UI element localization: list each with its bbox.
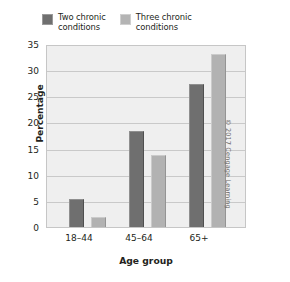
chart-legend: Two chronic conditions Three chronic con… xyxy=(42,12,192,32)
y-axis-title: Percentage xyxy=(34,74,45,154)
x-axis-title: Age group xyxy=(46,255,246,266)
bar-three-chronic-45-64 xyxy=(151,155,166,227)
y-tick-label-5: 5 xyxy=(0,197,39,207)
y-tick-label-35: 35 xyxy=(0,40,39,50)
y-tick-label-0: 0 xyxy=(0,223,39,233)
bar-two-chronic-45-64 xyxy=(129,131,144,227)
legend-entry-two-chronic-conditions: Two chronic conditions xyxy=(42,12,106,32)
copyright-credit: © 2017 Cengage Learning xyxy=(224,119,232,229)
y-tick-label-10: 10 xyxy=(0,171,39,181)
legend-label-two-chronic: Two chronic conditions xyxy=(58,12,106,32)
legend-swatch-icon-three-chronic xyxy=(120,14,131,25)
y-tick-label-15: 15 xyxy=(0,145,39,155)
y-tick-label-25: 25 xyxy=(0,92,39,102)
legend-label-three-chronic: Three chronic conditions xyxy=(136,12,192,32)
legend-swatch-icon-two-chronic xyxy=(42,14,53,25)
bar-two-chronic-65-plus xyxy=(189,84,204,227)
bar-chart-figure: Two chronic conditions Three chronic con… xyxy=(0,0,290,282)
bar-two-chronic-18-44 xyxy=(69,199,84,227)
y-tick-label-30: 30 xyxy=(0,66,39,76)
x-tick-label-65-plus: 65+ xyxy=(164,233,234,243)
y-tick-label-20: 20 xyxy=(0,118,39,128)
bar-three-chronic-18-44 xyxy=(91,217,106,228)
legend-entry-three-chronic-conditions: Three chronic conditions xyxy=(120,12,192,32)
plot-area xyxy=(46,45,246,228)
